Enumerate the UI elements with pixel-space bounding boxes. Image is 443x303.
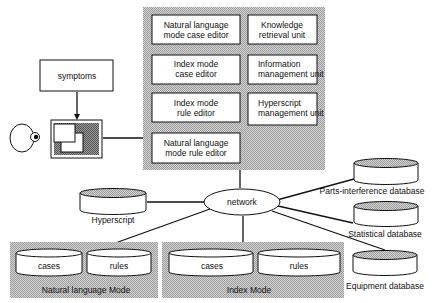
- natural-language-mode-label: Natural language Mode: [42, 285, 131, 295]
- svg-text:Index mode: Index mode: [174, 98, 219, 108]
- svg-text:Hyperscript: Hyperscript: [258, 98, 302, 108]
- svg-text:retrieval unit: retrieval unit: [259, 30, 306, 40]
- svg-text:Hyperscript: Hyperscript: [92, 215, 136, 225]
- module-hyperscript-management-unit[interactable]: Hyperscript management unit: [248, 93, 324, 125]
- module-information-management-unit[interactable]: Information management unit: [248, 55, 324, 84]
- nl-rules-database[interactable]: rules: [87, 249, 151, 276]
- network-node[interactable]: network: [204, 189, 280, 215]
- svg-text:Natural language: Natural language: [164, 138, 229, 148]
- equipment-database[interactable]: Equipment database: [346, 251, 424, 292]
- display-terminal-icon[interactable]: [51, 120, 102, 158]
- index-mode-panel: cases rules Index Mode: [162, 242, 344, 298]
- svg-text:Natural language: Natural language: [164, 20, 229, 30]
- svg-text:Information: Information: [258, 59, 301, 69]
- index-rules-database[interactable]: rules: [258, 249, 340, 276]
- symptoms-box[interactable]: symptoms: [40, 60, 113, 91]
- module-natural-language-case-editor[interactable]: Natural language mode case editor: [152, 15, 240, 44]
- svg-text:management unit: management unit: [258, 108, 324, 118]
- parts-interference-database[interactable]: Parts-interference database: [320, 159, 425, 197]
- module-natural-language-rule-editor[interactable]: Natural language mode rule editor: [152, 133, 240, 163]
- statistical-database[interactable]: Statistical database: [348, 202, 422, 240]
- svg-text:Equipment database: Equipment database: [346, 281, 424, 291]
- index-cases-database[interactable]: cases: [169, 249, 253, 276]
- svg-text:Knowledge: Knowledge: [261, 20, 303, 30]
- natural-language-mode-panel: cases rules Natural language Mode: [10, 242, 158, 298]
- svg-text:symptoms: symptoms: [58, 71, 97, 81]
- svg-text:case editor: case editor: [175, 69, 217, 79]
- svg-text:Index mode: Index mode: [174, 59, 219, 69]
- index-mode-label: Index Mode: [227, 285, 272, 295]
- svg-text:Statistical database: Statistical database: [348, 229, 422, 239]
- svg-text:rules: rules: [110, 261, 128, 271]
- svg-text:Parts-interference database: Parts-interference database: [320, 186, 425, 196]
- svg-text:rules: rules: [290, 261, 308, 271]
- svg-text:management unit: management unit: [258, 69, 324, 79]
- arrow-head-icon: [74, 114, 80, 120]
- nl-cases-database[interactable]: cases: [16, 249, 82, 276]
- system-diagram: Natural language mode case editor Knowle…: [0, 0, 443, 303]
- hyperscript-database[interactable]: Hyperscript: [80, 189, 146, 226]
- svg-text:mode rule editor: mode rule editor: [165, 148, 227, 158]
- svg-text:cases: cases: [38, 261, 60, 271]
- module-index-mode-case-editor[interactable]: Index mode case editor: [152, 55, 240, 84]
- svg-text:network: network: [227, 197, 258, 207]
- main-system-box: Natural language mode case editor Knowle…: [143, 7, 325, 170]
- svg-text:rule editor: rule editor: [177, 108, 215, 118]
- user-eye-icon: [10, 124, 40, 152]
- module-knowledge-retrieval-unit[interactable]: Knowledge retrieval unit: [248, 15, 317, 44]
- module-index-mode-rule-editor[interactable]: Index mode rule editor: [152, 93, 240, 122]
- svg-text:mode case editor: mode case editor: [163, 30, 228, 40]
- svg-text:cases: cases: [201, 261, 223, 271]
